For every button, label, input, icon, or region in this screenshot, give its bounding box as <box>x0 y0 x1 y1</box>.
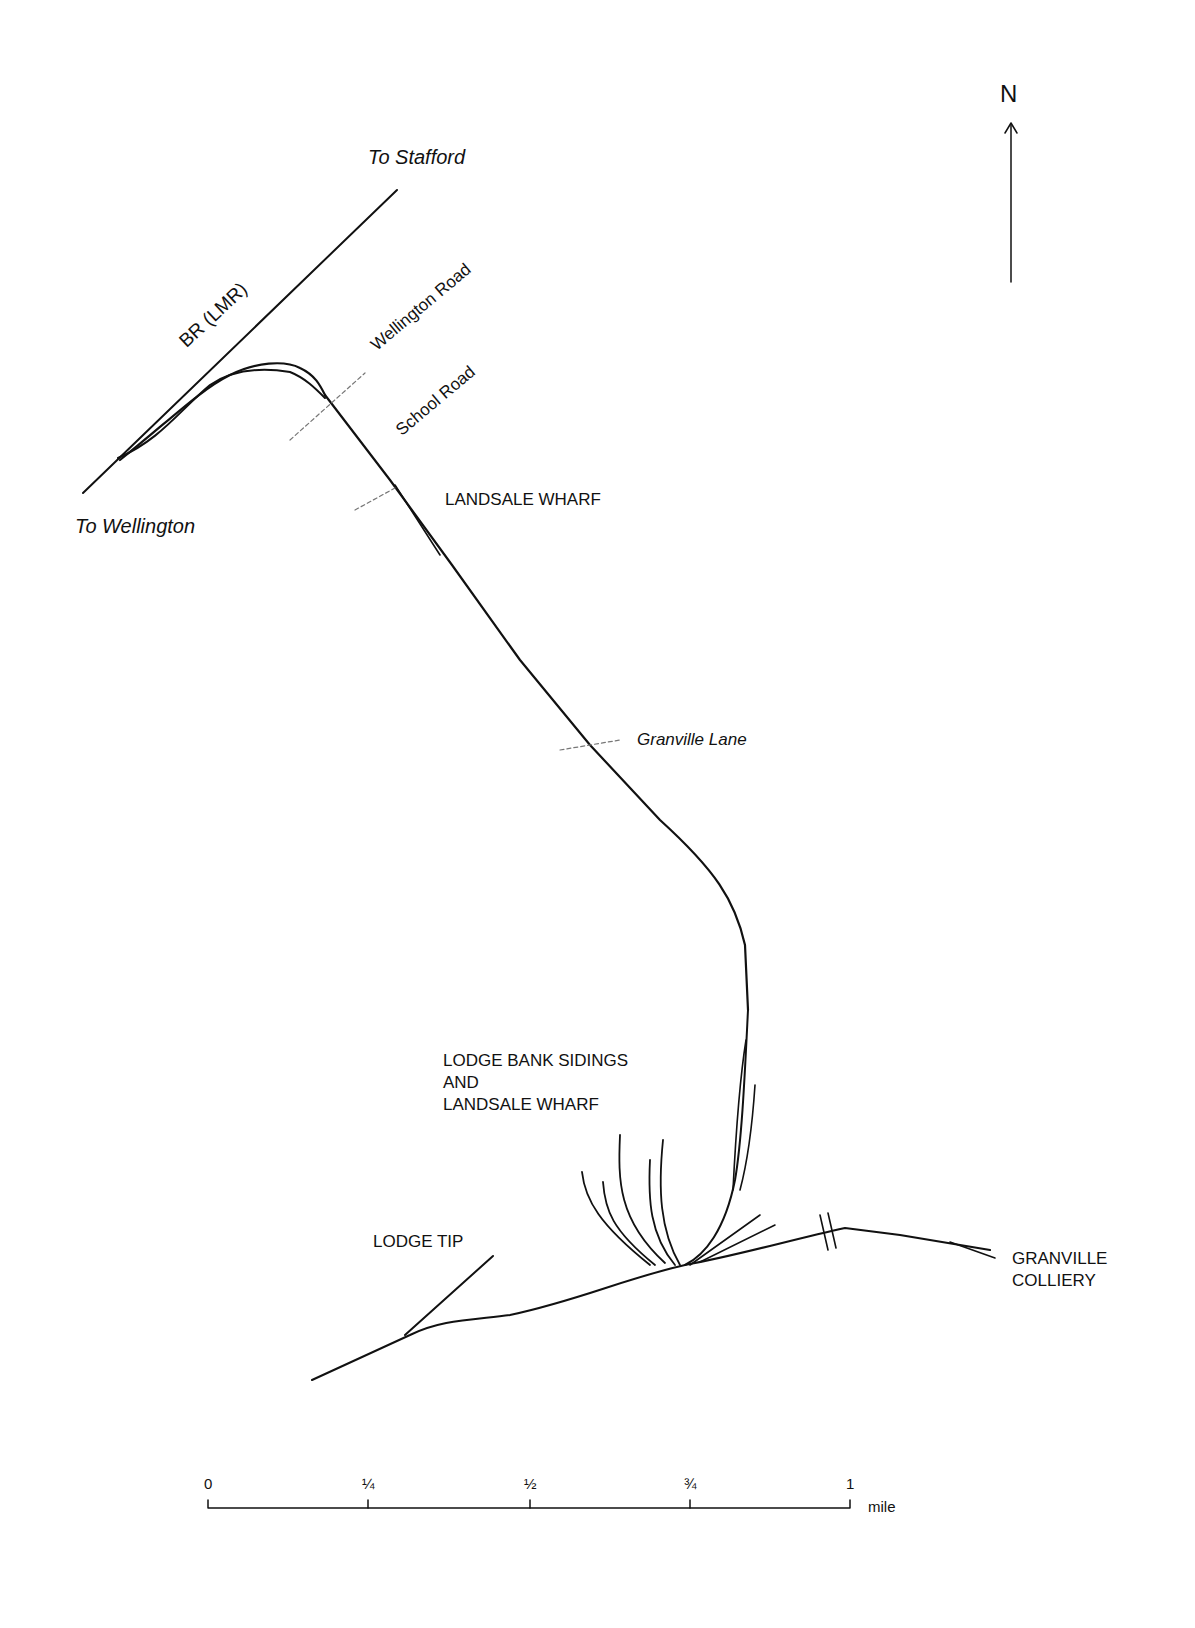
br-main-line <box>83 190 397 493</box>
granville-line-1: GRANVILLE <box>1012 1248 1107 1270</box>
scale-bar <box>208 1500 850 1508</box>
scale-label-0: 0 <box>204 1475 212 1492</box>
railway-map <box>0 0 1195 1628</box>
siding-2 <box>603 1182 655 1265</box>
landsale-siding <box>395 485 440 555</box>
wellington-road-crossing <box>290 373 365 440</box>
branch-line <box>325 395 748 1010</box>
label-lodge-bank-sidings: LODGE BANK SIDINGS AND LANDSALE WHARF <box>443 1050 628 1116</box>
lodge-bank-line-1: LODGE BANK SIDINGS <box>443 1050 628 1072</box>
granville-lane-crossing <box>560 740 620 750</box>
south-line <box>312 1265 685 1380</box>
label-granville-lane: Granville Lane <box>637 730 747 750</box>
lodge-bank-loop <box>733 1040 746 1190</box>
lodge-bank-main <box>685 1010 748 1265</box>
junction-loop-inner <box>118 370 325 458</box>
scale-label-1: 1 <box>846 1475 854 1492</box>
label-lodge-tip: LODGE TIP <box>373 1232 463 1252</box>
north-label: N <box>1000 80 1017 108</box>
label-landsale-wharf: LANDSALE WHARF <box>445 490 601 510</box>
scale-unit: mile <box>868 1498 896 1515</box>
siding-ne <box>690 1215 775 1265</box>
scale-label-quarter: ¼ <box>362 1475 375 1492</box>
label-to-wellington: To Wellington <box>75 515 195 538</box>
lodge-bank-line-2: AND <box>443 1072 628 1094</box>
lodge-bank-line-3: LANDSALE WHARF <box>443 1094 628 1116</box>
scale-label-half: ½ <box>524 1475 537 1492</box>
label-to-stafford: To Stafford <box>368 146 465 169</box>
scale-label-three-quarter: ¾ <box>684 1475 697 1492</box>
label-granville-colliery: GRANVILLE COLLIERY <box>1012 1248 1107 1292</box>
granville-line-2: COLLIERY <box>1012 1270 1107 1292</box>
school-road-crossing <box>355 488 395 510</box>
